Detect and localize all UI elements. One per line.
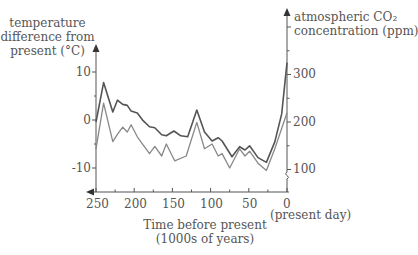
- x-tick-label: 150: [162, 197, 185, 211]
- left-y-title-line: present (°C): [0, 44, 95, 58]
- co2-line: [96, 63, 287, 163]
- right-axis-arrow-icon: [284, 8, 291, 16]
- right-y-axis-title: atmospheric CO₂ concentration (ppm): [294, 10, 418, 38]
- x-axis-arrow-icon: [86, 189, 94, 196]
- right-tick-label: 300: [293, 67, 316, 81]
- left-tick-label: 10: [76, 65, 91, 79]
- x-axis-title: Time before present (1000s of years): [140, 218, 270, 246]
- x-end-label: (present day): [270, 208, 351, 222]
- left-tick-label: -10: [72, 161, 91, 175]
- temperature-line: [96, 103, 287, 170]
- right-y-title-line: concentration (ppm): [294, 24, 418, 38]
- left-tick-label: 0: [83, 113, 91, 127]
- left-y-title-line: difference from: [0, 30, 95, 44]
- x-title-line: Time before present: [140, 218, 270, 232]
- x-tick-label: 100: [200, 197, 223, 211]
- right-y-title-line: atmospheric CO₂: [294, 10, 418, 24]
- axis-break-icon: [286, 172, 289, 179]
- x-tick-label: 200: [124, 197, 147, 211]
- x-title-line: (1000s of years): [140, 232, 270, 246]
- right-tick-label: 200: [293, 115, 316, 129]
- left-y-title-line: temperature: [0, 16, 95, 30]
- right-tick-label: 100: [293, 162, 316, 176]
- left-y-axis-title: temperature difference from present (°C): [0, 16, 95, 58]
- x-tick-label: 250: [86, 197, 109, 211]
- x-tick-label: 50: [242, 197, 257, 211]
